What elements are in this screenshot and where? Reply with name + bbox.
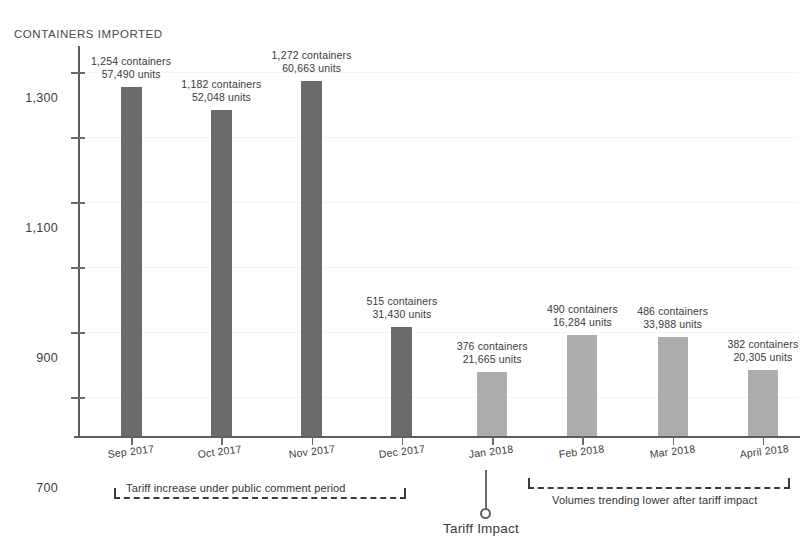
bar-value-label: 376 containers21,665 units — [457, 340, 528, 366]
y-tick-label: 1,300 — [25, 91, 58, 105]
y-tick-mark: 1,300 — [71, 72, 85, 74]
x-tick-label: Nov 2017 — [288, 442, 336, 460]
x-tick-label: Feb 2018 — [558, 442, 605, 460]
bar[interactable]: 376 containers21,665 units — [477, 372, 507, 436]
y-tick-label: 1,100 — [25, 221, 58, 235]
bar-units-text: 31,430 units — [366, 308, 437, 321]
x-tick-mark — [763, 436, 765, 445]
bar-units-text: 16,284 units — [547, 316, 618, 329]
bar-value-label: 1,272 containers60,663 units — [272, 49, 352, 75]
bar-containers-text: 490 containers — [547, 303, 618, 316]
bar-units-text: 20,305 units — [727, 351, 798, 364]
bar[interactable]: 1,182 containers52,048 units — [211, 110, 232, 436]
right-annotation-text: Volumes trending lower after tariff impa… — [552, 494, 757, 506]
chart-container: CONTAINERS IMPORTED 1,3001,1009007005003… — [0, 0, 812, 547]
grid-line — [80, 137, 798, 138]
y-tick-mark: 500 — [71, 332, 85, 334]
y-tick-mark: 1,100 — [71, 137, 85, 139]
bar[interactable]: 515 containers31,430 units — [391, 327, 412, 436]
x-tick-mark — [492, 436, 494, 445]
bar-rect — [211, 110, 232, 436]
bar-rect — [658, 337, 688, 436]
x-axis-line — [74, 436, 800, 438]
bar-value-label: 1,254 containers57,490 units — [91, 55, 171, 81]
bar-containers-text: 382 containers — [727, 338, 798, 351]
bar-rect — [567, 335, 597, 436]
y-tick-mark: 700 — [71, 267, 85, 269]
right-annotation-bracket — [528, 478, 790, 489]
bar-rect — [391, 327, 412, 436]
x-tick-mark — [131, 436, 133, 445]
x-tick-mark — [221, 436, 223, 445]
x-tick-mark — [402, 436, 404, 445]
tariff-impact-dot — [480, 508, 491, 519]
bar-containers-text: 376 containers — [457, 340, 528, 353]
tariff-impact-label: Tariff Impact — [443, 521, 519, 536]
bar-value-label: 486 containers33,988 units — [637, 305, 708, 331]
x-tick-label: April 2018 — [739, 442, 789, 460]
bar-containers-text: 515 containers — [366, 295, 437, 308]
grid-line — [80, 332, 798, 333]
x-tick-mark — [673, 436, 675, 445]
bar-containers-text: 1,272 containers — [272, 49, 352, 62]
bar-containers-text: 1,182 containers — [181, 78, 261, 91]
bar-value-label: 515 containers31,430 units — [366, 295, 437, 321]
grid-line — [80, 267, 798, 268]
y-tick-mark: 300 — [71, 397, 85, 399]
bar[interactable]: 490 containers16,284 units — [567, 335, 597, 436]
bar-units-text: 60,663 units — [272, 62, 352, 75]
bar-containers-text: 486 containers — [637, 305, 708, 318]
bar[interactable]: 1,254 containers57,490 units — [121, 87, 142, 436]
grid-line — [80, 397, 798, 398]
bar[interactable]: 486 containers33,988 units — [658, 337, 688, 436]
y-axis-line — [78, 46, 80, 438]
y-tick-mark: 900 — [71, 202, 85, 204]
bar-rect — [301, 81, 322, 436]
y-axis-title: CONTAINERS IMPORTED — [14, 28, 163, 40]
x-tick-label: Sep 2017 — [107, 442, 155, 460]
bar-units-text: 52,048 units — [181, 91, 261, 104]
bar-units-text: 21,665 units — [457, 353, 528, 366]
grid-line — [80, 72, 798, 73]
tariff-impact-stem — [485, 470, 487, 510]
bar-value-label: 1,182 containers52,048 units — [181, 78, 261, 104]
bar[interactable]: 382 containers20,305 units — [748, 370, 778, 436]
bar[interactable]: 1,272 containers60,663 units — [301, 81, 322, 436]
bar-value-label: 490 containers16,284 units — [547, 303, 618, 329]
bar-rect — [477, 372, 507, 436]
bar-units-text: 33,988 units — [637, 318, 708, 331]
x-tick-label: Jan 2018 — [468, 443, 514, 460]
bar-containers-text: 1,254 containers — [91, 55, 171, 68]
grid-line — [80, 202, 798, 203]
x-tick-label: Mar 2018 — [649, 442, 696, 460]
x-tick-mark — [312, 436, 314, 445]
x-tick-mark — [582, 436, 584, 445]
bar-rect — [748, 370, 778, 436]
x-tick-label: Dec 2017 — [378, 442, 426, 460]
x-tick-label: Oct 2017 — [197, 443, 242, 460]
bar-value-label: 382 containers20,305 units — [727, 338, 798, 364]
plot-area: 1,3001,100900700500300 1,254 containers5… — [78, 46, 800, 438]
left-annotation-text: Tariff increase under public comment per… — [126, 482, 346, 494]
bar-units-text: 57,490 units — [91, 68, 171, 81]
y-tick-label: 700 — [36, 481, 58, 495]
bar-rect — [121, 87, 142, 436]
y-tick-label: 900 — [36, 351, 58, 365]
